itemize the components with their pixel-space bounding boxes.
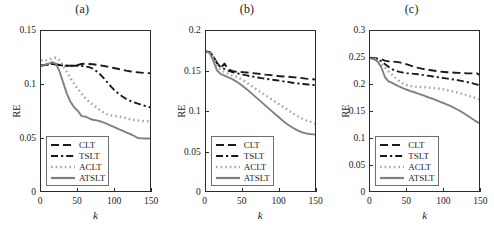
y-tick-mark	[205, 30, 209, 31]
y-tick-label: 0.1	[189, 106, 201, 116]
y-axis-label: RE	[340, 105, 351, 118]
x-tick-label: 150	[309, 196, 323, 206]
y-tick-label: 0.15	[184, 66, 201, 76]
panel-title: (b)	[165, 2, 330, 17]
panel-c: (c)00.050.10.150.20.250.3050100150REkCLT…	[329, 0, 494, 231]
x-tick-mark	[151, 188, 152, 192]
legend-label: ATSLT	[79, 173, 105, 183]
series-line-tslt	[41, 64, 151, 108]
y-tick-label: 0.2	[353, 79, 365, 89]
y-tick-mark	[40, 138, 44, 139]
legend-item-aclt: ACLT	[215, 161, 270, 172]
x-tick-mark	[40, 188, 41, 192]
figure-three-panel-line-charts: (a)00.050.10.15050100150REkCLTTSLTACLTAT…	[0, 0, 494, 231]
legend-key-atslt-icon	[215, 173, 241, 183]
legend-label: ACLT	[408, 162, 431, 172]
y-tick-label: 0.05	[349, 160, 366, 170]
plot-area: 00.050.10.150.2050100150REkCLTTSLTACLTAT…	[205, 30, 316, 192]
y-tick-mark	[369, 84, 373, 85]
x-tick-mark	[406, 188, 407, 192]
legend-item-aclt: ACLT	[50, 161, 105, 172]
y-tick-mark	[369, 57, 373, 58]
legend-label: ACLT	[244, 162, 267, 172]
x-tick-mark	[480, 188, 481, 192]
legend: CLTTSLTACLTATSLT	[375, 136, 438, 186]
legend-label: TSLT	[408, 151, 429, 161]
y-tick-label: 0.25	[349, 52, 366, 62]
panel-title: (c)	[329, 2, 494, 17]
legend-key-clt-icon	[379, 140, 405, 150]
y-tick-label: 0.3	[353, 25, 365, 35]
plot-area: 00.050.10.15050100150REkCLTTSLTACLTATSLT	[40, 30, 151, 192]
legend-label: CLT	[244, 140, 260, 150]
x-tick-mark	[369, 188, 370, 192]
x-tick-label: 0	[367, 196, 372, 206]
x-axis-label: k	[258, 209, 263, 221]
x-tick-label: 50	[402, 196, 412, 206]
legend: CLTTSLTACLTATSLT	[211, 136, 274, 186]
legend-key-aclt-icon	[50, 162, 76, 172]
legend: CLTTSLTACLTATSLT	[46, 136, 109, 186]
y-tick-mark	[369, 111, 373, 112]
legend-item-tslt: TSLT	[379, 150, 434, 161]
x-tick-label: 50	[237, 196, 247, 206]
panel-b: (b)00.050.10.150.2050100150REkCLTTSLTACL…	[165, 0, 330, 231]
legend-key-clt-icon	[50, 140, 76, 150]
y-tick-label: 0	[31, 187, 36, 197]
x-tick-mark	[77, 188, 78, 192]
x-tick-mark	[316, 188, 317, 192]
legend-key-tslt-icon	[215, 151, 241, 161]
x-tick-label: 50	[72, 196, 82, 206]
x-tick-label: 100	[436, 196, 450, 206]
x-tick-label: 150	[473, 196, 487, 206]
legend-item-atslt: ATSLT	[215, 172, 270, 183]
legend-item-tslt: TSLT	[215, 150, 270, 161]
x-tick-label: 0	[38, 196, 43, 206]
legend-key-aclt-icon	[215, 162, 241, 172]
series-line-tslt	[370, 58, 480, 86]
y-tick-label: 0.15	[19, 25, 36, 35]
y-tick-mark	[369, 30, 373, 31]
legend-item-aclt: ACLT	[379, 161, 434, 172]
y-tick-mark	[205, 71, 209, 72]
x-tick-mark	[114, 188, 115, 192]
legend-label: CLT	[408, 140, 424, 150]
legend-item-atslt: ATSLT	[50, 172, 105, 183]
y-tick-mark	[369, 138, 373, 139]
y-axis-label: RE	[176, 105, 187, 118]
panel-title: (a)	[0, 2, 165, 17]
y-tick-label: 0.1	[353, 133, 365, 143]
series-line-tslt	[206, 52, 316, 86]
y-tick-label: 0	[196, 187, 201, 197]
legend-key-atslt-icon	[379, 173, 405, 183]
legend-label: CLT	[79, 140, 95, 150]
x-axis-label: k	[93, 209, 98, 221]
y-tick-mark	[369, 165, 373, 166]
series-line-atslt	[206, 51, 316, 134]
x-tick-label: 0	[202, 196, 207, 206]
x-tick-mark	[279, 188, 280, 192]
legend-item-clt: CLT	[50, 139, 105, 150]
legend-label: TSLT	[244, 151, 265, 161]
y-tick-mark	[205, 152, 209, 153]
panel-a: (a)00.050.10.15050100150REkCLTTSLTACLTAT…	[0, 0, 165, 231]
x-tick-label: 100	[107, 196, 121, 206]
legend-key-tslt-icon	[379, 151, 405, 161]
y-tick-mark	[40, 84, 44, 85]
legend-item-clt: CLT	[379, 139, 434, 150]
x-tick-mark	[242, 188, 243, 192]
legend-item-atslt: ATSLT	[379, 172, 434, 183]
y-tick-mark	[205, 111, 209, 112]
x-tick-mark	[443, 188, 444, 192]
series-line-aclt	[206, 51, 316, 125]
y-tick-label: 0.15	[349, 106, 366, 116]
y-tick-label: 0.05	[184, 147, 201, 157]
legend-key-aclt-icon	[379, 162, 405, 172]
legend-key-atslt-icon	[50, 173, 76, 183]
x-tick-mark	[205, 188, 206, 192]
y-tick-label: 0.2	[189, 25, 201, 35]
legend-key-clt-icon	[215, 140, 241, 150]
y-tick-label: 0.1	[24, 79, 36, 89]
y-tick-mark	[40, 30, 44, 31]
series-line-clt	[370, 58, 480, 76]
